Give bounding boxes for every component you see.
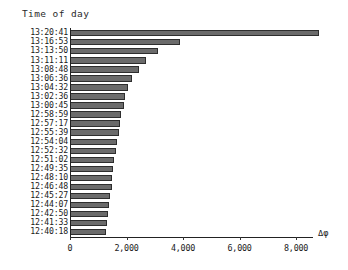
y-axis-tick-label: 13:08:48: [30, 65, 68, 74]
x-axis-tick-label: 0: [68, 243, 73, 253]
x-axis-tick-label: 2,000: [114, 243, 138, 253]
x-axis-tick-label: 6,000: [227, 243, 251, 253]
y-axis-tick-label: 12:40:18: [30, 227, 68, 236]
bar: [70, 175, 112, 181]
x-axis-tick-mark: [70, 237, 71, 240]
bar-row: [70, 74, 330, 83]
bar: [70, 120, 120, 126]
bars-layer: [70, 29, 330, 237]
bar: [70, 84, 128, 90]
bar: [70, 57, 146, 63]
bar-row: [70, 183, 330, 192]
bar-row: [70, 83, 330, 92]
y-axis-tick-label: 13:06:36: [30, 74, 68, 83]
bar: [70, 39, 180, 45]
plot-area: [70, 29, 330, 237]
bar: [70, 193, 110, 199]
bar-row: [70, 128, 330, 137]
bar: [70, 166, 113, 172]
bar-row: [70, 29, 330, 38]
bar: [70, 93, 125, 99]
x-axis-line: [70, 237, 313, 238]
y-axis-title: Time of day: [22, 8, 89, 19]
bar-row: [70, 138, 330, 147]
bar-row: [70, 101, 330, 110]
y-axis-line: [70, 28, 71, 237]
bar: [70, 229, 106, 235]
bar: [70, 66, 139, 72]
bar-row: [70, 38, 330, 47]
y-axis-tick-labels: 13:20:4113:16:5313:13:5013:11:1113:08:48…: [0, 29, 68, 237]
y-axis-tick-label: 13:13:50: [30, 46, 68, 55]
bar-row: [70, 165, 330, 174]
x-axis-tick-mark: [296, 237, 297, 240]
bar: [70, 211, 108, 217]
x-axis-title: Δφ: [318, 228, 328, 238]
bar-row: [70, 147, 330, 156]
x-axis-tick-mark: [127, 237, 128, 240]
bar: [70, 129, 119, 135]
bar-row: [70, 56, 330, 65]
bar-row: [70, 192, 330, 201]
x-axis-tick-label: 4,000: [171, 243, 195, 253]
bar-row: [70, 156, 330, 165]
bar: [70, 184, 112, 190]
bar-row: [70, 47, 330, 56]
bar: [70, 148, 116, 154]
x-axis-tick-mark: [240, 237, 241, 240]
bar: [70, 157, 114, 163]
bar: [70, 139, 117, 145]
bar-row: [70, 210, 330, 219]
bar: [70, 202, 109, 208]
bar-chart: Time of day 13:20:4113:16:5313:13:5013:1…: [0, 0, 348, 270]
bar: [70, 111, 121, 117]
bar: [70, 220, 107, 226]
y-axis-tick-label: 13:11:11: [30, 56, 68, 65]
x-axis-tick-mark: [183, 237, 184, 240]
bar-row: [70, 174, 330, 183]
bar-row: [70, 219, 330, 228]
bar-row: [70, 65, 330, 74]
bar-row: [70, 201, 330, 210]
bar: [70, 102, 124, 108]
bar-row: [70, 119, 330, 128]
bar: [70, 48, 158, 54]
bar-row: [70, 110, 330, 119]
bar: [70, 75, 132, 81]
bar-row: [70, 92, 330, 101]
x-axis-tick-label: 8,000: [284, 243, 308, 253]
bar: [70, 30, 319, 36]
